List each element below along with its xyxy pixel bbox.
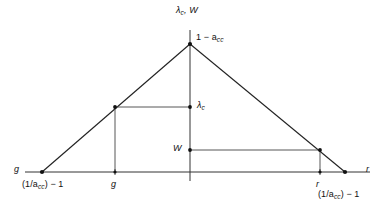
w-axis-point: [188, 148, 192, 152]
diagram-canvas: [0, 0, 385, 207]
g-axis-end-label: g: [14, 165, 19, 174]
lambda-axis-point: [188, 105, 192, 109]
apex-point: [188, 42, 192, 46]
r-tick-label: r: [316, 180, 319, 189]
left-vertex-point: [40, 170, 44, 174]
wage-profit-frontier-diagram: λc, W 1 − acc λc W g (1/acc) − 1 g r r (…: [0, 0, 385, 207]
lambda-left-point: [113, 105, 117, 109]
g-tick-label: g: [111, 180, 116, 189]
left-intercept-label: (1/acc) − 1: [22, 180, 63, 189]
right-intercept-label: (1/acc) − 1: [318, 190, 359, 199]
w-label: W: [173, 144, 182, 153]
w-right-point: [318, 148, 322, 152]
right-vertex-point: [343, 170, 347, 174]
g-baseline-point: [113, 170, 116, 173]
r-baseline-point: [318, 170, 321, 173]
lambda-c-label: λc: [197, 101, 205, 110]
right-frontier-line: [190, 44, 345, 172]
r-axis-end-label: r: [366, 165, 369, 174]
apex-value-label: 1 − acc: [196, 33, 224, 42]
vertical-axis-label: λc, W: [176, 6, 198, 15]
